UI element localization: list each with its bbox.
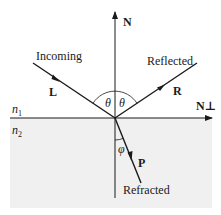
theta-left-label: θ bbox=[105, 97, 111, 109]
reflected-ray bbox=[115, 63, 197, 118]
refracted-vector-label: P bbox=[138, 157, 145, 169]
refracted-label: Refracted bbox=[123, 184, 170, 196]
medium2-label: n2 bbox=[12, 124, 22, 136]
incoming-arrow-icon bbox=[52, 75, 61, 83]
reflected-label: Reflected bbox=[147, 55, 193, 67]
lower-medium-region bbox=[10, 118, 212, 208]
theta-right-label: θ bbox=[119, 97, 125, 109]
normal-perp-label: N⊥ bbox=[196, 100, 216, 112]
reflection-refraction-diagram: N Incoming Reflected L R θ θ N⊥ n1 n2 φ … bbox=[0, 0, 221, 215]
incoming-vector-label: L bbox=[49, 86, 57, 98]
reflected-vector-label: R bbox=[173, 85, 182, 97]
incoming-label: Incoming bbox=[36, 50, 82, 62]
reflected-arrow-icon bbox=[157, 85, 165, 92]
medium1-sub: 1 bbox=[18, 109, 22, 118]
incoming-ray bbox=[33, 63, 115, 118]
medium2-sub: 2 bbox=[18, 130, 22, 139]
normal-label: N bbox=[123, 16, 132, 28]
phi-label: φ bbox=[118, 143, 125, 155]
medium1-label: n1 bbox=[12, 103, 22, 115]
